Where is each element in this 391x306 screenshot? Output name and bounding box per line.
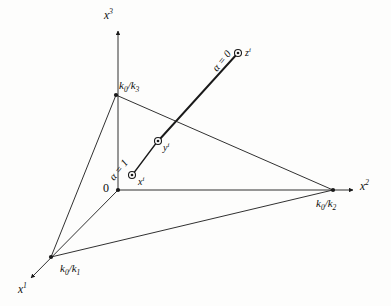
marker-x-i xyxy=(129,172,136,179)
vertex-dot-origin xyxy=(116,188,120,192)
marker-z-i xyxy=(235,50,242,57)
marker-y-i xyxy=(155,138,162,145)
figure-canvas: x3 x2 x1 0 k0/k3 k0/k2 k0/k1 xi yi zi α … xyxy=(0,0,391,306)
point-label-x-i: xi xyxy=(138,177,144,187)
edge-k1-k2 xyxy=(51,190,333,257)
edge-k3-k2 xyxy=(116,95,333,190)
diagram-svg xyxy=(0,0,391,306)
vertex-label-k0-k1: k0/k1 xyxy=(60,263,80,274)
ray-segment-yi-zi xyxy=(159,54,237,140)
axis-label-x3: x3 xyxy=(104,10,113,22)
vertex-label-k0-k3: k0/k3 xyxy=(119,80,139,91)
vertex-dot-k0-k3 xyxy=(114,93,118,97)
edge-k3-k1 xyxy=(51,95,116,257)
vertex-dot-k0-k1 xyxy=(49,255,53,259)
axis-label-x1: x1 xyxy=(18,284,27,296)
point-label-z-i: zi xyxy=(245,48,251,58)
vertex-dots xyxy=(49,93,335,259)
vertex-dot-k0-k2 xyxy=(331,188,335,192)
axis-label-x2: x2 xyxy=(360,181,369,193)
vertex-label-k0-k2: k0/k2 xyxy=(316,198,336,209)
ray-segment-xi-yi xyxy=(133,142,157,174)
point-label-y-i: yi xyxy=(163,143,169,153)
origin-label: 0 xyxy=(103,182,109,194)
